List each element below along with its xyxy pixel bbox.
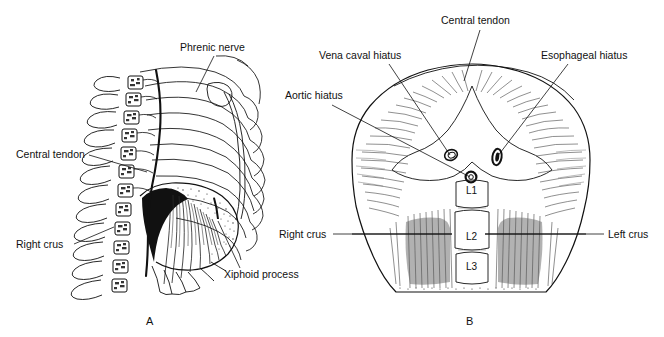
- label-vena-caval-hiatus: Vena caval hiatus: [319, 49, 401, 61]
- label-vertebra-l3: L3: [466, 261, 478, 272]
- label-left-crus-b: Left crus: [608, 228, 648, 240]
- label-right-crus-a: Right crus: [16, 238, 63, 250]
- label-right-crus-b: Right crus: [279, 228, 326, 240]
- label-aortic-hiatus: Aortic hiatus: [285, 89, 343, 101]
- anatomy-figure: Phrenic nerve Central tendon Right crus …: [0, 0, 664, 337]
- label-vertebra-l2: L2: [466, 231, 478, 242]
- panel-letter-b: B: [466, 315, 473, 327]
- label-vertebra-l1: L1: [466, 185, 478, 196]
- figure-canvas: Phrenic nerve Central tendon Right crus …: [0, 0, 664, 337]
- label-central-tendon-a: Central tendon: [16, 148, 85, 160]
- label-phrenic-nerve: Phrenic nerve: [180, 41, 245, 53]
- label-esophageal-hiatus: Esophageal hiatus: [541, 49, 627, 61]
- label-xiphoid-process: Xiphoid process: [224, 268, 299, 280]
- panel-letter-a: A: [146, 315, 154, 327]
- label-central-tendon-b: Central tendon: [441, 14, 510, 26]
